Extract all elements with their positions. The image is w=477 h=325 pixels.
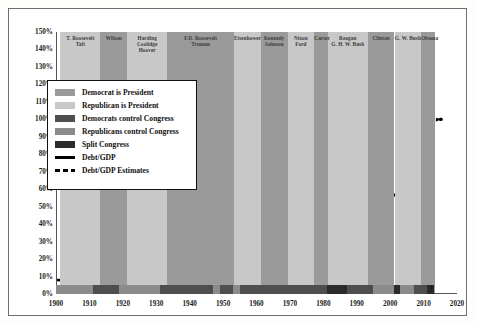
y-axis-tick-label: 130% [35, 63, 53, 71]
chart-outer-border: 0%10%20%30%40%50%60%70%80%90%100%110%120… [8, 8, 467, 316]
congress-control-strip [56, 285, 457, 294]
legend-item: Democrats control Congress [55, 112, 189, 125]
president-band-label: G. W. Bush [395, 35, 422, 41]
president-band-label: Eisenhower [234, 35, 261, 41]
congress-control-segment [347, 285, 374, 294]
legend-item: Debt/GDP [55, 151, 189, 164]
legend-color-swatch [55, 102, 75, 109]
legend-item-label: Democrat is President [82, 88, 154, 97]
president-band-label: Clinton [368, 35, 395, 41]
legend-item-label: Debt/GDP [82, 153, 116, 162]
legend-color-swatch [55, 115, 75, 122]
legend-item-label: Democrats control Congress [82, 114, 174, 123]
x-axis-tick-label: 1990 [350, 300, 364, 308]
president-band-label: Obama [421, 35, 434, 41]
x-axis-tick-label: 2000 [383, 300, 397, 308]
president-band [368, 32, 395, 293]
x-axis-tick-label: 1920 [116, 300, 130, 308]
president-band [234, 32, 261, 293]
legend-color-swatch [55, 128, 75, 135]
legend-line-swatch [55, 156, 75, 158]
x-axis-tick-label: 1950 [216, 300, 230, 308]
president-band-label: T. Roosevelt Taft [60, 35, 100, 47]
uncertainty-question-mark: ? [429, 285, 433, 294]
president-band-label: F.D. Roosevelt Truman [167, 35, 234, 47]
congress-control-segment [56, 285, 93, 294]
x-axis-tick-label: 1940 [182, 300, 196, 308]
president-band-label: Nixon Ford [288, 35, 315, 47]
x-axis-tick-label: 2020 [450, 300, 464, 308]
president-band [261, 32, 288, 293]
congress-control-segment [327, 285, 347, 294]
legend-dashed-line-swatch [55, 169, 75, 171]
congress-control-segment [233, 285, 240, 294]
president-band [288, 32, 315, 293]
president-band-label: Wilson [100, 35, 127, 41]
y-axis-tick-label: 140% [35, 45, 53, 53]
legend-item: Debt/GDP Estimates [55, 164, 189, 177]
legend-item-label: Republican is President [82, 101, 159, 110]
congress-control-segment [220, 285, 233, 294]
legend-item: Republican is President [55, 99, 189, 112]
x-axis-tick-label: 1930 [149, 300, 163, 308]
president-band [314, 32, 327, 293]
congress-control-segment [213, 285, 220, 294]
congress-control-segment [394, 285, 401, 294]
legend-item-label: Split Congress [82, 140, 129, 149]
president-band [421, 32, 434, 293]
legend-color-swatch [55, 141, 75, 148]
y-axis-tick-label: 50% [39, 203, 53, 211]
x-axis-tick-label: 1900 [49, 300, 63, 308]
legend-item: Republicans control Congress [55, 125, 189, 138]
y-axis-tick-label: 40% [39, 220, 53, 228]
president-band-label: Reagan G. H. W. Bush [328, 35, 368, 47]
legend-color-swatch [55, 89, 75, 96]
legend-item: Democrat is President [55, 86, 189, 99]
x-axis: 1900191019201930194019501960197019801990… [56, 297, 457, 315]
legend-item: Split Congress [55, 138, 189, 151]
congress-control-segment [119, 285, 159, 294]
president-band [328, 32, 368, 293]
y-axis-tick-label: 0% [42, 290, 53, 298]
congress-control-segment [373, 285, 393, 294]
president-band-label: Carter [314, 35, 327, 41]
y-axis-tick-label: 150% [35, 28, 53, 36]
y-axis-tick-label: 20% [39, 255, 53, 263]
x-axis-tick-label: 2010 [416, 300, 430, 308]
x-axis-tick-label: 1980 [316, 300, 330, 308]
x-axis-tick-label: 1910 [82, 300, 96, 308]
congress-control-segment [400, 285, 413, 294]
x-axis-tick-label: 1970 [283, 300, 297, 308]
president-band-label: Harding Coolidge Hoover [127, 35, 167, 54]
screenshot-frame: 0%10%20%30%40%50%60%70%80%90%100%110%120… [0, 0, 477, 325]
congress-control-segment [93, 285, 120, 294]
legend-item-label: Republicans control Congress [82, 127, 179, 136]
x-axis-tick-label: 1960 [249, 300, 263, 308]
legend-item-label: Debt/GDP Estimates [82, 166, 149, 175]
congress-control-segment [240, 285, 327, 294]
congress-control-segment [160, 285, 213, 294]
chart-legend: Democrat is PresidentRepublican is Presi… [47, 80, 197, 190]
president-band-label: Kennedy Johnson [261, 35, 288, 47]
band-divider [435, 32, 436, 293]
y-axis-tick-label: 10% [39, 273, 53, 281]
president-band [395, 32, 422, 293]
y-axis-tick-label: 30% [39, 238, 53, 246]
congress-control-segment [414, 285, 427, 294]
